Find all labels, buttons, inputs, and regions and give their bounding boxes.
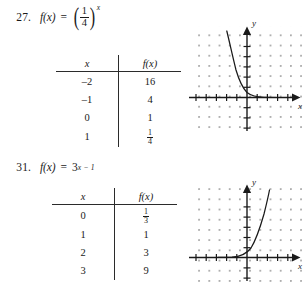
base-fraction: 1 4 xyxy=(80,6,89,28)
exercise-31-number: 31. xyxy=(0,161,40,173)
exponent: x − 1 xyxy=(78,163,95,172)
exercise-31-formula: f(x) = 3x − 1 xyxy=(40,161,95,173)
cell-fx: 3 xyxy=(115,244,177,262)
column-header-fx: f(x) xyxy=(119,55,181,72)
cell-fx: 9 xyxy=(115,262,177,280)
table-row: 0 1 xyxy=(56,108,181,126)
exercise-31-heading: 31. f(x) = 3x − 1 xyxy=(0,150,95,184)
exercise-27-number: 27. xyxy=(0,11,40,23)
cell-fx: 16 xyxy=(119,72,181,91)
fraction-numerator: 1 xyxy=(143,208,149,216)
graph-27-svg: y x xyxy=(188,14,306,134)
exponent: x xyxy=(97,3,100,12)
dot-grid xyxy=(190,184,302,282)
fraction-denominator: 4 xyxy=(147,137,153,146)
table-header-row: x f(x) xyxy=(56,55,181,72)
table-row: –1 4 xyxy=(56,90,181,108)
column-header-x: x xyxy=(52,188,114,205)
cell-x: 1 xyxy=(52,226,114,244)
fraction-denominator: 3 xyxy=(143,216,149,225)
exercise-27-heading: 27. f(x) = ( 1 4 ) x xyxy=(0,0,100,34)
dot-grid xyxy=(190,26,302,130)
table-row: 1 1 xyxy=(52,226,177,244)
values-table-27: x f(x) –2 16 –1 4 0 1 1 1 4 xyxy=(56,55,181,147)
cell-fx: 1 xyxy=(115,226,177,244)
graph-27: y x xyxy=(188,14,306,138)
cell-fraction: 1 4 xyxy=(147,129,153,147)
column-header-fx: f(x) xyxy=(115,188,177,205)
exercise-27: 27. f(x) = ( 1 4 ) x x f(x) –2 16 xyxy=(0,0,308,150)
fraction-numerator: 1 xyxy=(80,6,89,17)
function-notation: f(x) xyxy=(40,11,56,23)
left-paren: ( xyxy=(74,6,79,27)
cell-fx: 1 xyxy=(119,108,181,126)
x-axis-label: x xyxy=(297,101,302,111)
right-paren: ) xyxy=(90,6,95,27)
table-header-row: x f(x) xyxy=(52,188,177,205)
exercise-31: 31. f(x) = 3x − 1 x f(x) 0 1 3 1 1 xyxy=(0,150,308,288)
table-row: 1 1 4 xyxy=(56,126,181,147)
column-header-x: x xyxy=(56,55,118,72)
equals-sign: = xyxy=(61,11,68,23)
cell-x: 2 xyxy=(52,244,114,262)
cell-fx: 1 3 xyxy=(115,205,177,226)
cell-x: 3 xyxy=(52,262,114,280)
y-axis-label: y xyxy=(251,178,256,187)
values-table-31: x f(x) 0 1 3 1 1 2 3 3 9 xyxy=(52,188,177,280)
cell-x: 0 xyxy=(52,205,114,226)
cell-x: 1 xyxy=(56,126,118,147)
exercise-27-formula: f(x) = ( 1 4 ) x xyxy=(40,6,100,28)
graph-31: y x xyxy=(188,178,306,288)
cell-x: –1 xyxy=(56,90,118,108)
table-row: –2 16 xyxy=(56,72,181,91)
equals-sign: = xyxy=(61,161,68,173)
cell-x: –2 xyxy=(56,72,118,91)
graph-31-svg: y x xyxy=(188,178,306,286)
table-row: 3 9 xyxy=(52,262,177,280)
fraction-denominator: 4 xyxy=(80,17,89,29)
x-axis-label: x xyxy=(297,261,302,271)
y-axis-label: y xyxy=(251,18,256,28)
cell-fx: 1 4 xyxy=(119,126,181,147)
fraction-numerator: 1 xyxy=(147,129,153,137)
table-row: 2 3 xyxy=(52,244,177,262)
fraction-power-expression: ( 1 4 ) x xyxy=(72,6,100,28)
cell-x: 0 xyxy=(56,108,118,126)
cell-fraction: 1 3 xyxy=(143,208,149,226)
function-notation: f(x) xyxy=(40,161,56,173)
table-row: 0 1 3 xyxy=(52,205,177,226)
cell-fx: 4 xyxy=(119,90,181,108)
